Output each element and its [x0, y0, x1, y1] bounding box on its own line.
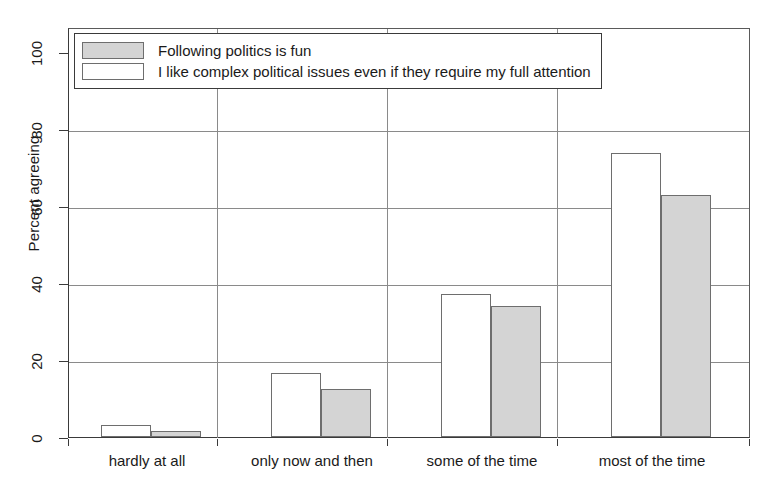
y-tick-mark-0 [59, 438, 68, 439]
y-tick-label-80: 80 [28, 111, 45, 151]
y-tick-mark-80 [59, 130, 68, 131]
x-category-label-most-of-the-time: most of the time [572, 452, 732, 469]
legend-entry-politics-fun: Following politics is fun [82, 40, 591, 61]
y-tick-mark-20 [59, 361, 68, 362]
category-separator-3 [557, 29, 558, 438]
legend-entry-complex-issues: I like complex political issues even if … [82, 61, 591, 82]
x-category-label-some-of-the-time: some of the time [402, 452, 562, 469]
plot-area [68, 28, 750, 438]
bar-chart: Percent agreeing 0 20 40 60 80 100 [0, 0, 768, 496]
bar-some-of-the-time-politics-fun [491, 306, 541, 437]
legend-swatch-white [82, 63, 144, 80]
bar-most-of-the-time-complex-issues [611, 153, 661, 437]
x-tick-mark-4 [749, 439, 750, 446]
bar-some-of-the-time-complex-issues [441, 294, 491, 437]
x-category-label-hardly-at-all: hardly at all [77, 452, 217, 469]
bar-only-now-and-then-complex-issues [271, 373, 321, 437]
bar-hardly-at-all-complex-issues [101, 425, 151, 437]
category-separator-1 [217, 29, 218, 438]
y-tick-label-20: 20 [28, 342, 45, 382]
gridline-80 [69, 131, 749, 132]
bar-only-now-and-then-politics-fun [321, 389, 371, 437]
bar-most-of-the-time-politics-fun [661, 195, 711, 437]
y-tick-mark-60 [59, 207, 68, 208]
legend: Following politics is fun I like complex… [74, 33, 602, 89]
x-tick-mark-0 [68, 439, 69, 446]
y-tick-mark-40 [59, 284, 68, 285]
y-tick-label-40: 40 [28, 265, 45, 305]
x-category-label-only-now-and-then: only now and then [232, 452, 392, 469]
y-tick-label-0: 0 [28, 419, 45, 459]
y-tick-label-60: 60 [28, 188, 45, 228]
legend-swatch-gray [82, 42, 144, 59]
bar-hardly-at-all-politics-fun [151, 431, 201, 437]
y-tick-mark-100 [59, 53, 68, 54]
x-tick-mark-3 [557, 439, 558, 446]
y-tick-label-100: 100 [28, 34, 45, 74]
legend-label-politics-fun: Following politics is fun [158, 42, 311, 59]
category-separator-2 [387, 29, 388, 438]
legend-label-complex-issues: I like complex political issues even if … [158, 63, 591, 80]
x-tick-mark-2 [387, 439, 388, 446]
x-tick-mark-1 [217, 439, 218, 446]
